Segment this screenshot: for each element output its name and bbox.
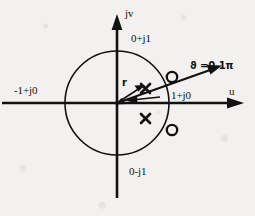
zero-marker-upper	[167, 72, 177, 82]
label-bottom-0-minus-j1: 0-j1	[129, 166, 146, 177]
axis-label-jv: jv	[125, 8, 133, 19]
pole-marker-lower	[141, 114, 150, 123]
pole-marker-upper	[141, 84, 150, 93]
pole-zero-diagram	[0, 0, 255, 216]
label-top-0-plus-j1: 0+j1	[131, 33, 151, 44]
axis-label-u: u	[229, 86, 234, 97]
label-right-1-plus-j0: 1+j0	[171, 90, 191, 101]
label-radius-r: r	[122, 78, 127, 88]
figure-canvas: jv 0+j1 0-j1 -1+j0 1+j0 u r ϑ =0.1π	[0, 0, 255, 216]
label-left-minus-1-plus-j0: -1+j0	[14, 85, 37, 96]
zero-marker-lower	[167, 125, 177, 135]
label-angle-theta: ϑ =0.1π	[190, 61, 233, 71]
vertical-axis	[112, 14, 123, 198]
